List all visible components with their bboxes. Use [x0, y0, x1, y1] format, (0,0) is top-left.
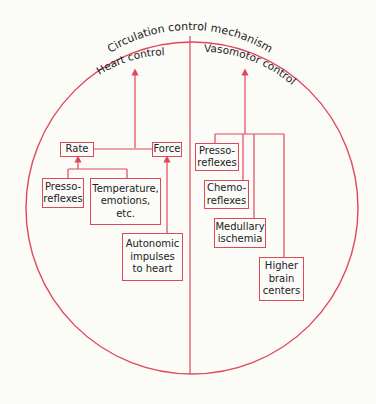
- higher-brain-centers-box: Higher brain centers: [259, 257, 304, 301]
- vasomotor-pressoreflexes-box: Presso- reflexes: [195, 143, 239, 171]
- outer-circle: [26, 42, 358, 374]
- medullary-ischemia-box: Medullary ischemia: [214, 218, 266, 248]
- autonomic-impulses-box: Autonomic impulses to heart: [122, 233, 183, 281]
- rate-box: Rate: [60, 142, 94, 157]
- temperature-emotions-box: Temperature, emotions, etc.: [90, 178, 161, 225]
- heart-control-label: Heart control: [94, 45, 165, 77]
- chemoreflexes-box: Chemo- reflexes: [204, 180, 249, 209]
- heart-pressoreflexes-box: Presso- reflexes: [42, 178, 84, 208]
- vasomotor-control-label: Vasomotor control: [204, 42, 299, 87]
- force-box: Force: [152, 142, 182, 157]
